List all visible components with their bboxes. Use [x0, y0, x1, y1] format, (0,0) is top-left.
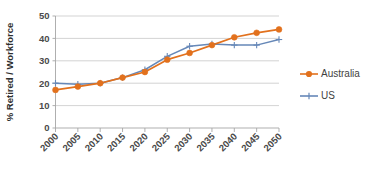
australia-data-point-marker: [75, 84, 81, 90]
australia-data-point-marker: [276, 27, 282, 33]
australia-data-point-marker: [209, 42, 215, 48]
legend-label-us: US: [321, 90, 335, 101]
australia-data-point-marker: [254, 30, 260, 36]
chart-container: 01020304050 2000200520102015202020252030…: [0, 0, 375, 170]
y-tick-label: 40: [39, 33, 50, 44]
y-tick-label: 30: [39, 55, 50, 66]
legend-marker-diamond-icon: [306, 71, 312, 77]
y-tick-label: 10: [39, 100, 50, 111]
australia-data-point-marker: [53, 87, 59, 93]
australia-data-point-marker: [120, 75, 126, 81]
australia-data-point-marker: [187, 50, 193, 56]
y-tick-label: 20: [39, 78, 50, 89]
australia-data-point-marker: [231, 34, 237, 40]
line-chart: 01020304050 2000200520102015202020252030…: [0, 0, 375, 170]
y-tick-label: 0: [44, 122, 49, 133]
y-axis-title: % Retired / Workforce: [4, 23, 15, 122]
australia-data-point-marker: [97, 80, 103, 86]
y-tick-label: 50: [39, 10, 50, 21]
legend-label-australia: Australia: [321, 68, 360, 79]
australia-data-point-marker: [164, 57, 170, 63]
australia-data-point-marker: [142, 69, 148, 75]
